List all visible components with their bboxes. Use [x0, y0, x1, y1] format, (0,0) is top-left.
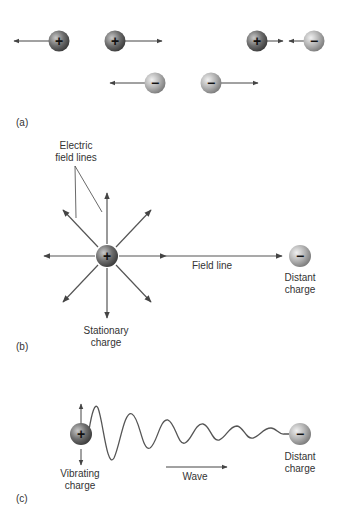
distant-charge-label: Distant [284, 272, 315, 283]
negative-charge: − [201, 73, 222, 94]
svg-text:+: + [55, 33, 63, 49]
svg-text:charge: charge [285, 284, 316, 295]
svg-text:−: − [207, 75, 215, 91]
svg-text:−: − [151, 75, 159, 91]
stationary-charge-label: Stationary [83, 325, 128, 336]
distant-negative-charge: − [289, 423, 311, 445]
svg-text:−: − [296, 248, 304, 264]
panel-b: Electric field lines + Field line − Dist… [16, 140, 316, 352]
svg-text:+: + [77, 426, 85, 442]
panel-label-b: (b) [16, 341, 28, 352]
negative-charge: − [304, 31, 325, 52]
field-line-label: Field line [192, 260, 232, 271]
negative-charge: − [145, 73, 166, 94]
svg-text:field lines: field lines [55, 152, 97, 163]
svg-text:charge: charge [91, 337, 122, 348]
svg-text:+: + [103, 248, 111, 264]
svg-text:−: − [310, 33, 318, 49]
distant-negative-charge: − [289, 245, 311, 267]
panel-label-a: (a) [16, 117, 28, 128]
svg-text:−: − [296, 426, 304, 442]
svg-text:+: + [253, 33, 261, 49]
svg-text:charge: charge [285, 463, 316, 474]
positive-charge: + [105, 31, 126, 52]
wave-label: Wave [182, 471, 208, 482]
electric-field-lines-label: Electric [60, 140, 93, 151]
vibrating-positive-charge: + [70, 423, 92, 445]
positive-charge: + [247, 31, 268, 52]
panel-c: + − Distant charge Wave Vibrating charge… [16, 404, 316, 504]
svg-text:+: + [111, 33, 119, 49]
positive-charge: + [49, 31, 70, 52]
leader-line [75, 166, 76, 218]
electric-charges-diagram: + + + − − − (a) Electric [0, 0, 338, 510]
panel-label-c: (c) [16, 493, 28, 504]
stationary-positive-charge: + [96, 245, 118, 267]
field-lines [44, 193, 282, 318]
leader-line [75, 166, 102, 212]
vibrating-charge-label: Vibrating [60, 468, 99, 479]
wave-path [89, 406, 289, 460]
distant-charge-label: Distant [284, 451, 315, 462]
svg-text:charge: charge [65, 480, 96, 491]
panel-a: + + + − − − (a) [14, 31, 325, 129]
